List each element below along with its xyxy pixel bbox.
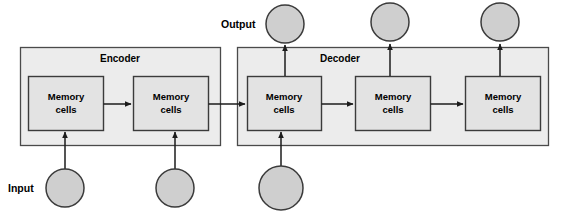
input-node-1 [46, 169, 84, 207]
encoder-section: Encoder Memory cells Memory cells [21, 48, 221, 146]
decoder-memory-cell-1-line1: Memory [266, 91, 303, 102]
decoder-memory-cell-1: Memory cells [248, 77, 322, 131]
input-node-3 [259, 166, 303, 210]
decoder-label: Decoder [320, 53, 360, 64]
output-label: Output [221, 18, 256, 30]
decoder-section: Decoder Memory cells Memory cells Memory… [238, 48, 549, 146]
decoder-memory-cell-2: Memory cells [356, 77, 431, 131]
encoder-memory-cell-2-line1: Memory [153, 91, 190, 102]
decoder-memory-cell-3-line2: cells [492, 104, 513, 115]
encoder-memory-cell-1: Memory cells [29, 77, 104, 131]
input-label: Input [8, 182, 34, 194]
input-node-2 [156, 169, 194, 207]
decoder-memory-cell-3: Memory cells [466, 77, 541, 131]
encoder-memory-cell-1-line2: cells [55, 104, 76, 115]
decoder-memory-cell-1-line2: cells [273, 104, 294, 115]
output-node-2 [371, 3, 409, 41]
decoder-memory-cell-2-line1: Memory [375, 91, 412, 102]
encoder-label: Encoder [100, 53, 140, 64]
diagram-canvas: Encoder Memory cells Memory cells Decode… [0, 0, 561, 214]
encoder-memory-cell-2-line2: cells [160, 104, 181, 115]
encoder-decoder-diagram: Encoder Memory cells Memory cells Decode… [0, 0, 561, 214]
decoder-memory-cell-3-line1: Memory [485, 91, 522, 102]
encoder-memory-cell-1-line1: Memory [48, 91, 85, 102]
decoder-memory-cell-2-line2: cells [382, 104, 403, 115]
output-node-3 [481, 3, 519, 41]
output-node-1 [266, 5, 304, 43]
encoder-memory-cell-2: Memory cells [134, 77, 209, 131]
